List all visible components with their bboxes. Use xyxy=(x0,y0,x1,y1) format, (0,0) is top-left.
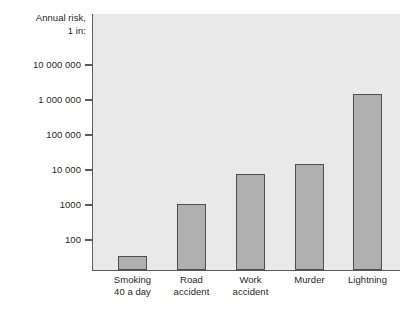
category-label-line1: Lightning xyxy=(348,274,387,285)
category-label-line2: accident xyxy=(211,286,291,298)
y-axis-tick-label: 10 000 xyxy=(0,165,81,175)
y-axis-tick xyxy=(85,64,92,65)
y-axis-tick-label: 100 000 xyxy=(0,130,81,140)
bar xyxy=(295,164,324,270)
y-axis-tick-label: 1000 xyxy=(0,200,81,210)
category-label-line1: Road xyxy=(180,274,203,285)
bar xyxy=(236,174,265,270)
y-axis-tick xyxy=(85,239,92,240)
y-axis-tick xyxy=(85,99,92,100)
y-axis-tick xyxy=(85,134,92,135)
category-label-line1: Work xyxy=(239,274,261,285)
y-axis-tick-label: 10 000 000 xyxy=(0,60,81,70)
y-axis-title-line2: 1 in: xyxy=(0,25,86,38)
risk-bar-chart: Annual risk, 1 in: 10 000 0001 000 00010… xyxy=(0,0,417,315)
bar xyxy=(118,256,147,270)
y-axis-title-line1: Annual risk, xyxy=(36,12,86,23)
y-axis-line xyxy=(92,14,93,271)
x-axis-category-label: Lightning xyxy=(328,274,408,286)
bar xyxy=(353,94,382,270)
y-axis-tick-label: 1 000 000 xyxy=(0,95,81,105)
category-label-line1: Murder xyxy=(294,274,324,285)
y-axis-tick xyxy=(85,169,92,170)
y-axis-title: Annual risk, 1 in: xyxy=(0,12,86,37)
y-axis-tick-label: 100 xyxy=(0,235,81,245)
bar xyxy=(177,204,206,270)
category-label-line1: Smoking xyxy=(114,274,151,285)
y-axis-tick xyxy=(85,204,92,205)
